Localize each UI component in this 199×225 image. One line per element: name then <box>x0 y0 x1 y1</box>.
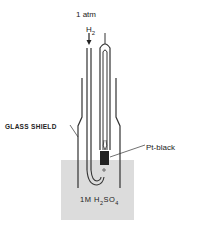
pt-black-label: Pt-black <box>146 143 175 152</box>
gas-label: H2 <box>86 25 95 36</box>
electrode-tube <box>100 44 110 150</box>
pressure-label: 1 atm <box>76 10 96 19</box>
electrode-diagram <box>0 0 199 225</box>
pt-black-electrode <box>100 151 109 165</box>
electrolyte-solution <box>61 160 134 220</box>
electrolyte-label: 1M H2SO4 <box>80 195 119 206</box>
glass-shield-label: GLASS SHIELD <box>5 123 57 130</box>
h2-inlet-tube <box>87 48 91 170</box>
